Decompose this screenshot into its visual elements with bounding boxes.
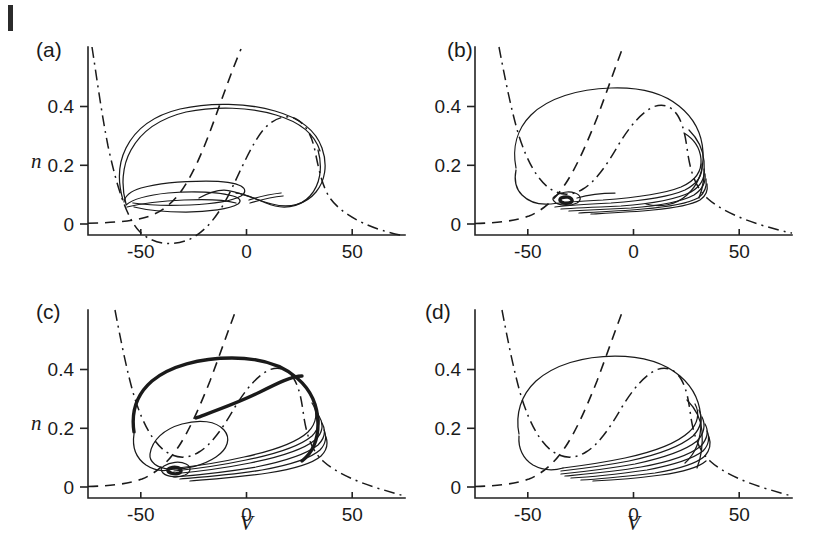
panel-c-thick-bundle bbox=[133, 358, 318, 461]
panel-a-xtick-labels: -50 0 50 bbox=[127, 241, 363, 262]
xtick-50: 50 bbox=[342, 241, 363, 262]
panel-a-inner-loop-upper bbox=[124, 181, 245, 205]
panel-a-descending-branch bbox=[236, 150, 320, 207]
panel-c-n-nullcline bbox=[88, 310, 236, 487]
panel-c-spiral-1 bbox=[178, 403, 316, 468]
ytick-0: 0 bbox=[450, 214, 461, 235]
panel-b-xtick-labels: -50 0 50 bbox=[514, 241, 750, 262]
panel-b-n-nullcline bbox=[475, 47, 623, 224]
ytick-0: 0 bbox=[63, 477, 74, 498]
panel-c-ylabel: n bbox=[31, 411, 42, 436]
figure-container: (a) n 0.4 0.2 0 -50 0 50 bbox=[0, 0, 823, 557]
ytick-0.2: 0.2 bbox=[48, 418, 74, 439]
panel-c-spiral-3 bbox=[172, 416, 322, 474]
panel-d-plot: 0.4 0.2 0 -50 0 50 bbox=[411, 288, 823, 557]
ytick-0.2: 0.2 bbox=[435, 155, 461, 176]
panel-a-ylabel: n bbox=[31, 149, 42, 174]
panel-d: (d) V 0.4 0.2 0 -50 0 50 bbox=[411, 288, 823, 557]
xtick--50: -50 bbox=[514, 504, 541, 525]
panel-c-label: (c) bbox=[36, 300, 61, 324]
panel-b-plot: 0.4 0.2 0 -50 0 50 bbox=[411, 18, 823, 280]
panel-b-limit-cycle bbox=[515, 88, 703, 206]
panel-d-label: (d) bbox=[425, 300, 451, 324]
panel-b-ytick-labels: 0.4 0.2 0 bbox=[435, 96, 462, 235]
xtick--50: -50 bbox=[514, 241, 541, 262]
panel-d-n-nullcline bbox=[475, 310, 623, 487]
panel-a-label: (a) bbox=[36, 38, 62, 62]
panel-c-ytick-labels: 0.4 0.2 0 bbox=[48, 359, 75, 498]
ytick-0: 0 bbox=[450, 477, 461, 498]
ytick-0: 0 bbox=[63, 214, 74, 235]
panel-d-xlabel: V bbox=[627, 511, 640, 536]
panel-a-n-nullcline bbox=[88, 49, 241, 223]
panel-c-axes bbox=[80, 310, 405, 498]
ytick-0.2: 0.2 bbox=[435, 418, 461, 439]
xtick--50: -50 bbox=[127, 504, 154, 525]
xtick-50: 50 bbox=[342, 504, 363, 525]
panel-c-plot: 0.4 0.2 0 -50 0 50 bbox=[0, 288, 412, 557]
panel-b: (b) 0.4 0.2 0 -50 0 50 bbox=[411, 18, 823, 280]
panel-a-v-nullcline bbox=[92, 47, 405, 244]
panel-a: (a) n 0.4 0.2 0 -50 0 50 bbox=[0, 18, 412, 280]
xtick-0: 0 bbox=[241, 241, 252, 262]
panel-b-label: (b) bbox=[447, 38, 473, 62]
panel-c-thick-bundle-inner bbox=[196, 376, 302, 418]
ytick-0.4: 0.4 bbox=[48, 359, 75, 380]
ytick-0.2: 0.2 bbox=[48, 155, 74, 176]
panel-b-v-nullcline bbox=[499, 47, 792, 233]
panel-a-large-orbit bbox=[120, 104, 326, 206]
panel-d-limit-cycle-left bbox=[519, 436, 563, 470]
ytick-0.4: 0.4 bbox=[435, 96, 462, 117]
panel-b-small-loop-core bbox=[560, 197, 572, 203]
panel-d-ytick-labels: 0.4 0.2 0 bbox=[435, 359, 462, 498]
ytick-0.4: 0.4 bbox=[435, 359, 462, 380]
panel-b-limit-cycle-left bbox=[515, 170, 550, 204]
xtick--50: -50 bbox=[127, 241, 154, 262]
panel-c-v-nullcline bbox=[115, 310, 405, 496]
xtick-0: 0 bbox=[628, 241, 639, 262]
panel-c-xlabel: V bbox=[240, 511, 253, 536]
xtick-50: 50 bbox=[729, 241, 750, 262]
panel-c-outer-left bbox=[134, 434, 177, 470]
panel-b-small-loop-exit bbox=[577, 193, 615, 198]
panel-d-axes bbox=[467, 310, 792, 498]
panel-a-ytick-labels: 0.4 0.2 0 bbox=[48, 96, 75, 235]
panel-a-plot: 0.4 0.2 0 -50 0 50 bbox=[0, 18, 412, 280]
xtick-50: 50 bbox=[729, 504, 750, 525]
panel-d-v-nullcline bbox=[502, 310, 792, 496]
ytick-0.4: 0.4 bbox=[48, 96, 75, 117]
panel-c: (c) n V 0.4 0.2 0 -50 0 50 bbox=[0, 288, 412, 557]
